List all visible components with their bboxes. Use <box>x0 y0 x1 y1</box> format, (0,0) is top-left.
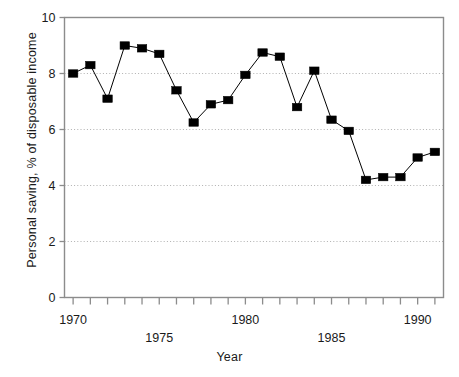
x-axis-tick-labels: 19701975198019851990 <box>59 313 431 345</box>
x-axis-ticks <box>73 298 435 305</box>
figure-container: 19701975198019851990 0246810 Personal sa… <box>0 0 459 377</box>
x-tick-label: 1970 <box>59 313 87 327</box>
series-line <box>73 46 435 180</box>
data-point-marker <box>103 95 113 103</box>
gridlines <box>65 74 444 242</box>
chart-canvas: 19701975198019851990 0246810 <box>0 0 459 377</box>
x-tick-label: 1980 <box>231 313 259 327</box>
y-axis-tick-labels: 0246810 <box>42 11 56 305</box>
y-tick-label: 8 <box>49 67 56 81</box>
x-tick-label: 1990 <box>404 313 432 327</box>
x-tick-label: 1985 <box>318 331 346 345</box>
x-tick-label: 1975 <box>145 331 173 345</box>
data-point-marker <box>361 176 371 184</box>
data-point-marker <box>206 101 216 109</box>
data-point-marker <box>413 154 423 162</box>
data-point-marker <box>241 71 251 79</box>
data-point-marker <box>120 42 130 50</box>
data-point-marker <box>155 50 165 58</box>
data-point-marker <box>275 53 285 61</box>
data-point-marker <box>68 70 78 78</box>
data-point-marker <box>172 87 182 95</box>
data-point-marker <box>86 61 96 69</box>
y-axis-ticks <box>60 18 65 298</box>
data-point-marker <box>430 148 440 156</box>
data-point-marker <box>223 96 233 104</box>
data-point-marker <box>396 173 406 181</box>
y-tick-label: 4 <box>49 179 56 193</box>
y-axis-title: Personal saving, % of disposable income <box>22 0 42 300</box>
data-point-marker <box>344 127 354 134</box>
plot-frame <box>65 18 444 298</box>
data-point-marker <box>310 67 320 75</box>
data-point-marker <box>258 49 268 57</box>
data-series-personal-saving <box>68 42 439 184</box>
y-tick-label: 0 <box>49 291 56 305</box>
y-tick-label: 6 <box>49 123 56 137</box>
x-axis-title: Year <box>0 350 459 364</box>
data-point-marker <box>292 103 302 111</box>
y-axis-title-text: Personal saving, % of disposable income <box>25 32 39 268</box>
data-point-marker <box>189 119 199 127</box>
y-tick-label: 10 <box>42 11 56 25</box>
data-point-marker <box>137 45 147 53</box>
y-tick-label: 2 <box>49 235 56 249</box>
data-point-marker <box>327 116 337 124</box>
data-point-marker <box>378 173 388 181</box>
